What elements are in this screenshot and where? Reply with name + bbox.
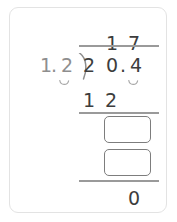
partial-product-digit-1: 1	[83, 91, 95, 110]
dividend-decimal-shift-caret-icon	[128, 72, 139, 79]
dividend-decimal-point: .	[120, 56, 126, 75]
division-vinculum	[79, 45, 159, 47]
subtraction-rule-2	[79, 180, 159, 182]
final-remainder: 0	[128, 189, 140, 208]
dividend-digit-2: 0	[106, 56, 118, 75]
quotient-digit-1: 1	[106, 34, 118, 53]
divisor-decimal-point: .	[51, 56, 57, 75]
division-card: 1 7 1 . 2 2 0 . 4 1 2 0	[9, 7, 167, 213]
quotient-digit-2: 7	[128, 34, 140, 53]
subtraction-rule-1	[79, 112, 159, 114]
dividend-digit-1: 2	[83, 56, 95, 75]
partial-product-digit-2: 2	[105, 91, 117, 110]
answer-box-1[interactable]	[104, 116, 151, 143]
answer-box-2[interactable]	[104, 149, 151, 176]
divisor-decimal-shift-caret-icon	[59, 72, 70, 79]
